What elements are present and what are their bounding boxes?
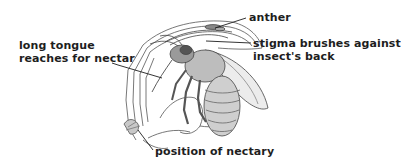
label-stigma: stigma brushes against insect's back xyxy=(253,38,401,63)
leader-line-stigma xyxy=(206,41,251,43)
label-nectary: position of nectary xyxy=(155,146,274,159)
bee-drawing xyxy=(150,35,268,136)
label-stigma-line1: stigma brushes against xyxy=(253,38,401,51)
label-long-tongue: long tongue reaches for nectar xyxy=(19,40,135,65)
leader-line-anther xyxy=(215,18,246,28)
leader-line-tongue xyxy=(112,63,162,78)
label-long-tongue-line1: long tongue xyxy=(19,40,135,53)
label-stigma-line2: insect's back xyxy=(253,51,401,64)
label-anther: anther xyxy=(249,12,291,25)
label-long-tongue-line2: reaches for nectar xyxy=(19,53,135,66)
leader-line-nectary xyxy=(138,130,153,150)
